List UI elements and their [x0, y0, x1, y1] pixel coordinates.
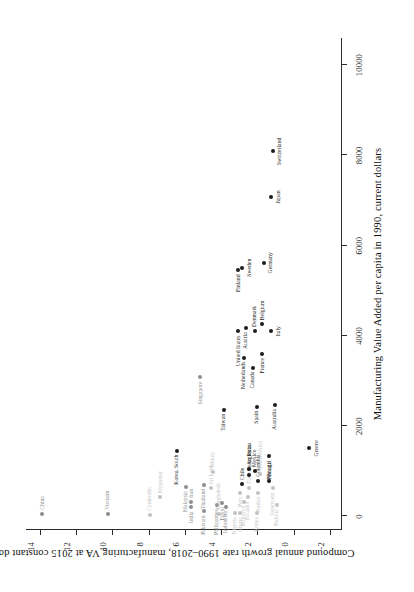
scatter-point: [242, 356, 246, 360]
y-tick: [185, 530, 186, 535]
point-label: France: [259, 358, 265, 374]
x-tick-label: 6000: [354, 237, 364, 255]
y-tick: [149, 530, 150, 535]
scatter-point: [148, 513, 152, 517]
scatter-point: [202, 483, 206, 487]
y-tick-label: 2: [243, 542, 253, 546]
y-tick: [112, 530, 113, 535]
x-tick-label: 4000: [354, 327, 364, 345]
point-label: Vietnam: [105, 490, 111, 509]
scatter-point: [273, 403, 277, 407]
point-label: Denmark: [252, 306, 258, 327]
point-label: Portugal: [267, 460, 273, 479]
point-label: Spain: [254, 411, 260, 424]
scatter-point: [256, 479, 260, 483]
y-tick-label: 0: [280, 542, 290, 546]
x-axis-title: Manufacturing Value Added per capita in …: [372, 38, 383, 530]
point-label: Chile: [239, 468, 245, 480]
point-label: Thailand: [201, 489, 207, 509]
scatter-point: [255, 405, 259, 409]
scatter-point: [269, 195, 273, 199]
y-tick-label: 6: [171, 542, 181, 546]
point-label: Taiwan: [221, 414, 227, 431]
x-tick: [342, 64, 347, 65]
point-label: Japan: [275, 190, 281, 203]
x-tick: [342, 245, 347, 246]
point-label: Greece: [313, 440, 319, 456]
scatter-point: [224, 505, 228, 509]
x-tick: [342, 154, 347, 155]
point-label: Korea, South: [174, 455, 180, 485]
point-label: South Africa: [257, 441, 263, 470]
plot-area: 0200040006000800010000 -202468101214 Chi…: [26, 38, 342, 530]
y-axis-title: Compound annual growth rate 1990–2018, m…: [25, 548, 355, 559]
point-label: Belgium: [259, 301, 265, 321]
scatter-point: [189, 505, 193, 509]
scatter-point: [211, 470, 215, 474]
point-label: Myanmar: [158, 471, 164, 493]
point-label: Sweden: [246, 259, 252, 277]
x-tick: [342, 335, 347, 336]
point-label: Netherlands: [241, 362, 247, 390]
rotated-figure-wrapper: 0200040006000800010000 -202468101214 Chi…: [0, 0, 414, 592]
scatter-point: [222, 408, 226, 412]
scatter-point: [258, 472, 262, 476]
figure-page: 0200040006000800010000 -202468101214 Chi…: [0, 0, 414, 592]
scatter-point: [269, 329, 273, 333]
scatter-point: [247, 473, 251, 477]
point-label: Jordan: [256, 497, 262, 512]
point-label: Cambodia: [147, 487, 153, 510]
y-tick-label: 8: [135, 542, 145, 546]
scatter-point: [251, 366, 255, 370]
point-label: Switzerland: [277, 138, 283, 165]
scatter-point: [271, 486, 275, 490]
point-label: Canada: [250, 372, 256, 389]
point-label: Germany: [268, 252, 274, 273]
point-label: Indonesia: [223, 511, 229, 533]
point-label: Singapore: [198, 381, 204, 404]
scatter-point: [233, 511, 237, 515]
point-label: Finland: [236, 274, 242, 291]
scatter-point: [256, 491, 260, 495]
scatter-point: [175, 449, 179, 453]
y-tick: [40, 530, 41, 535]
scatter-point: [236, 329, 240, 333]
scatter-figure: 0200040006000800010000 -202468101214 Chi…: [0, 0, 414, 592]
x-tick: [342, 425, 347, 426]
point-label: China: [40, 496, 46, 510]
scatter-point: [158, 495, 162, 499]
point-label: Italy: [275, 326, 281, 337]
point-label: Australia: [272, 409, 278, 430]
x-tick-label: 10000: [354, 54, 364, 76]
scatter-point: [220, 501, 224, 505]
scatter-point: [189, 500, 193, 504]
scatter-point: [271, 149, 275, 153]
scatter-point: [238, 491, 242, 495]
scatter-point: [253, 329, 257, 333]
scatter-point: [247, 486, 251, 490]
point-label: Pakistan: [201, 516, 207, 535]
scatter-point: [240, 482, 244, 486]
scatter-point: [106, 512, 110, 516]
point-label: Kenya: [254, 517, 260, 532]
point-label: Turkey: [210, 452, 216, 468]
x-tick: [342, 515, 347, 516]
x-tick-label: 2000: [354, 417, 364, 435]
point-label: Bolivia: [274, 509, 280, 526]
point-label: Ecuador: [245, 501, 251, 520]
scatter-point: [244, 326, 248, 330]
scatter-point: [260, 322, 264, 326]
y-tick: [330, 530, 331, 535]
scatter-point: [209, 486, 213, 490]
scatter-point: [198, 375, 202, 379]
y-tick: [294, 530, 295, 535]
point-label: India: [188, 511, 194, 523]
x-axis-line: [341, 38, 342, 530]
point-label: Austria: [243, 332, 249, 349]
point-label: Iran: [188, 489, 194, 498]
point-label: United States: [236, 335, 242, 366]
scatter-point: [260, 352, 264, 356]
scatter-point: [240, 266, 244, 270]
scatter-point: [262, 261, 266, 265]
y-tick: [76, 530, 77, 535]
